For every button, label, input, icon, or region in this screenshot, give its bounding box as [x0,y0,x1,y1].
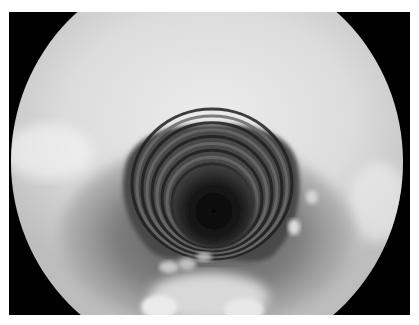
lumen-center [172,165,256,249]
tissue-highlight [288,219,300,235]
tissue-nodule [196,252,212,262]
tissue-nodule [159,261,179,273]
highlight-right [349,162,409,242]
image-frame [9,12,410,315]
tissue-highlight [306,190,318,204]
tissue-nodule [178,258,196,270]
endoscopic-view [9,12,410,315]
